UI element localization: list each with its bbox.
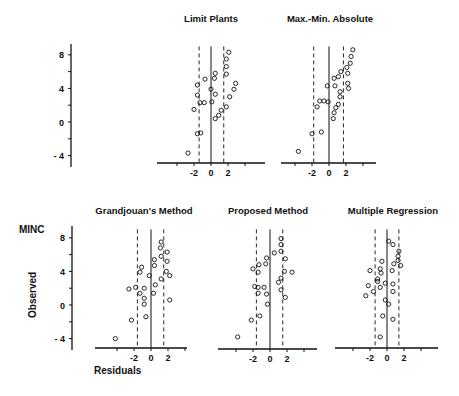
data-point <box>276 280 280 284</box>
data-point <box>142 302 146 306</box>
data-point <box>333 84 337 88</box>
data-point <box>380 259 384 263</box>
data-point <box>349 54 353 58</box>
data-point <box>334 106 338 110</box>
data-point <box>129 318 133 322</box>
data-point <box>224 72 228 76</box>
data-point <box>378 335 382 339</box>
data-point <box>279 288 283 292</box>
data-point <box>345 65 349 69</box>
data-point <box>142 286 146 290</box>
panel-title: Grandjouan's Method <box>95 205 192 216</box>
scatter-panel-3: Grandjouan's Method-202 <box>95 205 193 363</box>
data-point <box>251 267 255 271</box>
data-point <box>265 292 269 296</box>
y-axis-label: Observed <box>27 272 38 318</box>
y-tick-label: 4 <box>59 84 64 94</box>
data-point <box>318 99 322 103</box>
data-point <box>392 262 396 266</box>
data-point <box>258 314 262 318</box>
panel-title: Multiple Regression <box>348 205 438 216</box>
x-tick-label: 2 <box>343 168 348 178</box>
data-point <box>224 105 228 109</box>
x-tick-label: -2 <box>308 168 316 178</box>
data-point <box>346 86 350 90</box>
data-point <box>336 75 340 79</box>
scatter-panel-5: Multiple Regression-202 <box>335 205 438 363</box>
data-point <box>315 105 319 109</box>
x-tick-label: 0 <box>267 354 272 364</box>
panel-title: Proposed Method <box>228 205 308 216</box>
data-point <box>391 282 395 286</box>
x-tick-label: 0 <box>326 168 331 178</box>
data-point <box>257 263 261 267</box>
data-point <box>391 289 395 293</box>
data-point <box>202 101 206 105</box>
x-tick-label: 2 <box>165 353 170 363</box>
corner-label: MINC <box>19 224 45 235</box>
data-point <box>192 107 196 111</box>
data-point <box>262 285 266 289</box>
data-point <box>249 318 253 322</box>
data-point <box>165 259 169 263</box>
data-point <box>159 254 163 258</box>
data-point <box>213 117 217 121</box>
data-point <box>283 257 287 261</box>
data-point <box>319 130 323 134</box>
data-point <box>138 291 142 295</box>
data-point <box>332 76 336 80</box>
data-point <box>396 254 400 258</box>
x-axis-label: Residuals <box>94 365 142 376</box>
y-axis-top: 840- 4 <box>53 44 71 167</box>
y-tick-label: 4 <box>60 267 65 277</box>
scatter-panel-4: Proposed Method-202 <box>218 205 317 364</box>
data-point <box>195 93 199 97</box>
data-point <box>142 296 146 300</box>
data-point <box>224 64 228 68</box>
data-point <box>232 87 236 91</box>
x-tick-label: 2 <box>225 168 230 178</box>
data-point <box>364 294 368 298</box>
data-point <box>391 317 395 321</box>
data-point <box>236 335 240 339</box>
data-point <box>332 111 336 115</box>
data-point <box>144 315 148 319</box>
data-point <box>366 284 370 288</box>
data-point <box>265 256 269 260</box>
data-point <box>210 100 214 104</box>
data-point <box>153 283 157 287</box>
data-point <box>272 251 276 255</box>
data-point <box>217 113 221 117</box>
data-point <box>138 270 142 274</box>
data-point <box>346 71 350 75</box>
x-tick-label: -2 <box>190 168 198 178</box>
x-tick-label: 2 <box>401 353 406 363</box>
data-point <box>264 262 268 266</box>
data-point <box>168 298 172 302</box>
x-tick-label: -2 <box>366 353 374 363</box>
data-point <box>159 277 163 281</box>
data-point <box>391 242 395 246</box>
data-point <box>165 250 169 254</box>
panel-title: Max.-Min. Absolute <box>287 13 373 24</box>
data-point <box>168 274 172 278</box>
data-point <box>164 269 168 273</box>
data-point <box>326 100 330 104</box>
data-point <box>152 258 156 262</box>
data-point <box>322 99 326 103</box>
data-point <box>378 285 382 289</box>
data-point <box>227 50 231 54</box>
data-point <box>283 295 287 299</box>
data-point <box>152 263 156 267</box>
data-point <box>290 270 294 274</box>
data-point <box>390 268 394 272</box>
data-point <box>186 151 190 155</box>
y-tick-label: 0 <box>59 118 64 128</box>
data-point <box>158 246 162 250</box>
x-tick-label: 0 <box>148 353 153 363</box>
data-point <box>213 71 217 75</box>
data-point <box>331 117 335 121</box>
data-point <box>127 287 131 291</box>
data-point <box>371 289 375 293</box>
data-point <box>203 77 207 81</box>
